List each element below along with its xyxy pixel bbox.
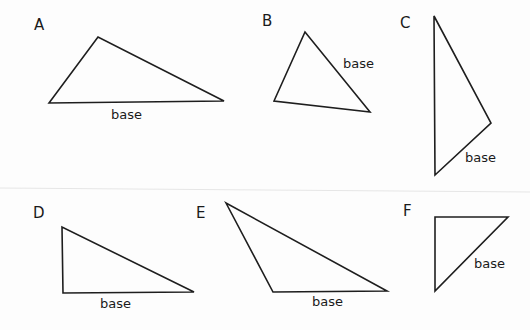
triangle-a-shape <box>49 37 224 103</box>
triangle-d: D base <box>33 204 194 311</box>
triangle-label-e: E <box>196 204 205 222</box>
triangle-label-d: D <box>33 204 45 222</box>
triangle-a: A base <box>34 16 224 122</box>
triangle-label-a: A <box>34 16 45 34</box>
base-label-b: base <box>343 56 374 71</box>
triangle-label-c: C <box>400 14 410 32</box>
paper-line <box>0 188 530 192</box>
base-label-e: base <box>312 294 343 309</box>
triangle-f-shape <box>435 217 508 291</box>
triangle-figure: A base B base C base D base E base F <box>0 0 530 330</box>
triangle-b: B base <box>262 12 374 112</box>
triangle-e-shape <box>226 203 387 292</box>
base-label-a: base <box>111 107 142 122</box>
triangle-label-b: B <box>262 12 272 30</box>
triangle-e: E base <box>196 203 387 309</box>
base-label-c: base <box>465 150 496 165</box>
triangle-b-shape <box>274 32 370 112</box>
triangles-svg: A base B base C base D base E base F <box>0 0 530 330</box>
triangle-f: F base <box>403 202 508 291</box>
triangle-d-shape <box>62 227 194 293</box>
triangle-c: C base <box>400 14 496 175</box>
triangle-label-f: F <box>403 202 412 220</box>
base-label-d: base <box>100 296 131 311</box>
base-label-f: base <box>474 256 505 271</box>
